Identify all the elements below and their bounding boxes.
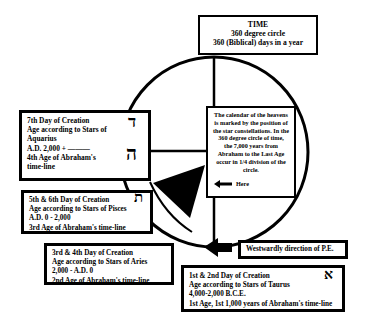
third-fourth-day-box: 3rd & 4th Day of Creation Age according … xyxy=(44,243,174,285)
fifth-sixth-line: Age according to Stars of Pisces xyxy=(29,205,150,214)
third-fourth-line: 2nd Age of Abraham's time-line xyxy=(52,277,171,286)
time-heading: TIME xyxy=(200,20,316,29)
first-second-line: 1st Age, 1st 1,000 years of Abraham's ti… xyxy=(189,300,342,309)
here-label: Here xyxy=(236,180,249,188)
quarter-wedge-icon xyxy=(153,165,205,218)
info-line: the star constellations. In the xyxy=(208,127,294,135)
fifth-sixth-line: 5th & 6th Day of Creation xyxy=(29,196,150,205)
calendar-info-box: The calendar of the heavens is marked by… xyxy=(206,106,296,198)
time-line1: 360 degree circle xyxy=(200,29,316,38)
fifth-sixth-line: A.D. 0 - 2,000 xyxy=(29,214,150,223)
info-line: is marked by the position of xyxy=(208,119,294,127)
fifth-sixth-line: 3rd Age of Abraham's time-line xyxy=(29,224,150,233)
hebrew-dalet-icon: ד xyxy=(128,117,136,126)
here-marker: Here xyxy=(214,180,249,188)
diagram-canvas: TIME 360 degree circle 360 (Biblical) da… xyxy=(0,0,368,332)
hebrew-he-icon: ה xyxy=(126,149,137,158)
fifth-sixth-day-box: 5th & 6th Day of Creation Age according … xyxy=(21,190,153,234)
first-second-line: 1st & 2nd Day of Creation xyxy=(189,272,342,281)
third-fourth-line: 3rd & 4th Day of Creation xyxy=(52,249,171,258)
time-title-box: TIME 360 degree circle 360 (Biblical) da… xyxy=(198,15,318,55)
info-line: occur in 1/4 division of the xyxy=(208,158,294,166)
third-fourth-line: Age according to Stars of Aries xyxy=(52,258,171,267)
hebrew-aleph-icon: א xyxy=(324,270,333,279)
info-line: the 7,000 years from xyxy=(208,142,294,150)
first-second-day-box: 1st & 2nd Day of Creation Age according … xyxy=(181,265,345,312)
info-line: circle. xyxy=(208,166,294,174)
westward-label: Westwardly direction of P.E. xyxy=(246,245,345,254)
westward-direction-box: Westwardly direction of P.E. xyxy=(238,240,348,259)
hebrew-tav-icon: ת xyxy=(134,193,143,202)
info-line: The calendar of the heavens xyxy=(208,111,294,119)
third-fourth-line: 2,000 - A.D. 0 xyxy=(52,267,171,276)
first-second-line: 4,000-2,000 B.C.E. xyxy=(189,290,342,299)
arrow-left-icon xyxy=(214,180,232,188)
first-second-line: Age according to Stars of Taurus xyxy=(189,281,342,290)
seventh-day-box: 7th Day of Creation Age according to Sta… xyxy=(19,110,151,181)
info-line: Abraham to the Last Age xyxy=(208,150,294,158)
info-line: 360 degree circle of time, xyxy=(208,134,294,142)
time-line2: 360 (Biblical) days in a year xyxy=(200,38,316,47)
westward-arrow-icon xyxy=(204,238,232,257)
